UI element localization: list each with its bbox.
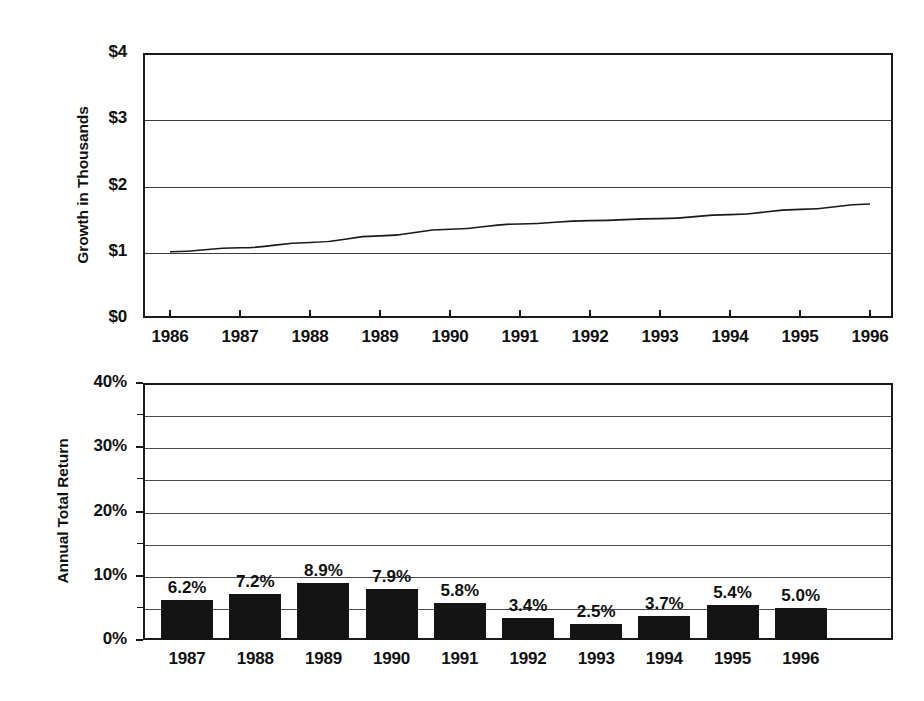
line-chart-x-tick: 1988 — [275, 327, 345, 347]
line-chart-x-tickmark — [869, 310, 871, 318]
line-chart-x-tick: 1989 — [345, 327, 415, 347]
line-chart-x-tickmark — [589, 310, 591, 318]
bar-chart-y-tickmark — [136, 639, 143, 641]
line-chart-x-tickmark — [309, 310, 311, 318]
line-chart-x-tickmark — [169, 310, 171, 318]
line-chart-x-tick: 1993 — [625, 327, 695, 347]
bar — [570, 624, 622, 640]
bar-chart-y-tick: 30% — [65, 436, 127, 456]
growth-curve-path — [170, 204, 870, 252]
line-chart-x-tickmark — [659, 310, 661, 318]
line-chart-x-tickmark — [799, 310, 801, 318]
bar-chart-gridline — [145, 480, 891, 481]
bar-chart-gridline — [145, 545, 891, 546]
line-chart-x-tickmark — [379, 310, 381, 318]
bar-chart-y-tickmark — [136, 511, 143, 513]
line-chart-x-tick: 1995 — [765, 327, 835, 347]
line-chart-x-tick: 1992 — [555, 327, 625, 347]
two-panel-investment-chart: Growth in Thousands $4$3$2$1$0 198619871… — [0, 0, 924, 701]
bar — [434, 603, 486, 640]
line-chart-x-tick: 1987 — [205, 327, 275, 347]
line-chart-x-tick: 1986 — [135, 327, 205, 347]
line-chart-x-tickmark — [519, 310, 521, 318]
bar — [229, 594, 281, 640]
bar — [707, 605, 759, 640]
bar-value-label: 5.0% — [761, 586, 841, 606]
bar-chart-gridline — [145, 513, 891, 514]
bar — [366, 589, 418, 640]
bar-chart-y-tickmark — [136, 575, 143, 577]
bar — [161, 600, 213, 640]
bar-chart-y-tickmark — [136, 446, 143, 448]
line-chart-x-tick: 1991 — [485, 327, 555, 347]
bar — [638, 616, 690, 640]
line-chart-x-tickmark — [449, 310, 451, 318]
bar-chart-y-tickmark — [136, 382, 143, 384]
bar — [775, 608, 827, 640]
bar-chart-y-tick: 10% — [65, 565, 127, 585]
line-chart-x-tick: 1994 — [695, 327, 765, 347]
line-chart-x-tickmark — [239, 310, 241, 318]
bar-chart-y-tick: 0% — [65, 629, 127, 649]
bar-chart-gridline — [145, 416, 891, 417]
bar — [297, 583, 349, 640]
bar-chart-y-tick: 40% — [65, 372, 127, 392]
line-chart-x-tickmark — [729, 310, 731, 318]
line-chart-x-tick: 1996 — [835, 327, 905, 347]
line-chart-x-tick: 1990 — [415, 327, 485, 347]
bar-chart-gridline — [145, 448, 891, 449]
bar-chart-y-tick: 20% — [65, 501, 127, 521]
bar — [502, 618, 554, 640]
bar-chart-x-tick: 1996 — [761, 649, 841, 669]
